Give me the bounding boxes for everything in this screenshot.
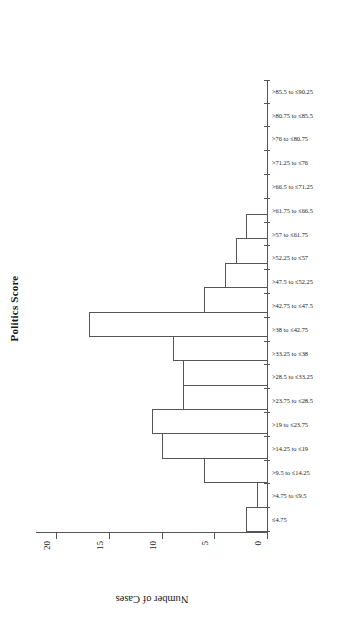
- y-axis-tick: [267, 533, 268, 539]
- x-axis-tick: [264, 341, 270, 342]
- y-axis-tick-label: 20: [42, 541, 52, 550]
- x-axis-tick: [264, 245, 270, 246]
- histogram-bar: [173, 336, 268, 361]
- x-axis-tick-label: >19 to ≤23.75: [270, 413, 356, 437]
- x-axis-tick-label-text: >14.25 to ≤19: [272, 445, 308, 452]
- histogram-figure: Politics Score Number of Cases 05101520 …: [0, 0, 363, 617]
- bars-container: [36, 81, 267, 532]
- y-axis-tick: [109, 533, 110, 539]
- x-axis-tick: [264, 436, 270, 437]
- x-axis-tick-label-text: >9.5 to ≤14.25: [272, 469, 310, 476]
- x-axis-tick: [264, 150, 270, 151]
- x-axis-tick-label: >14.25 to ≤19: [270, 437, 356, 461]
- histogram-bar: [225, 263, 267, 288]
- x-axis-tick: [264, 103, 270, 104]
- x-axis-tick: [264, 222, 270, 223]
- x-axis-tick-label-text: >76 to ≤80.75: [272, 136, 308, 143]
- x-axis-tick-label-text: ≤4.75: [272, 516, 287, 523]
- y-axis-tick: [56, 533, 57, 539]
- y-axis-tick: [214, 533, 215, 539]
- x-axis-tick-label-text: >47.5 to ≤52.25: [272, 278, 313, 285]
- x-axis-tick-label: >4.75 to ≤9.5: [270, 484, 356, 508]
- histogram-bar: [183, 360, 267, 385]
- x-axis-tick-labels: ≤4.75>4.75 to ≤9.5>9.5 to ≤14.25>14.25 t…: [270, 80, 356, 532]
- histogram-bar: [183, 385, 267, 410]
- x-axis-tick-label: >9.5 to ≤14.25: [270, 461, 356, 485]
- x-axis-tick: [264, 388, 270, 389]
- x-axis-tick-label-text: >52.25 to ≤57: [272, 255, 308, 262]
- y-axis-tick: [162, 533, 163, 539]
- x-axis-tick-label: >85.5 to ≤90.25: [270, 80, 356, 104]
- histogram-bar: [204, 458, 267, 483]
- histogram-bar: [257, 482, 268, 507]
- x-axis-tick-label: >80.75 to ≤85.5: [270, 104, 356, 128]
- x-axis-tick: [264, 507, 270, 508]
- x-axis-tick-label: >33.25 to ≤38: [270, 342, 356, 366]
- x-axis-tick: [264, 269, 270, 270]
- histogram-bar: [236, 239, 268, 264]
- x-axis-tick: [264, 174, 270, 175]
- x-axis-tick-label: ≤4.75: [270, 508, 356, 532]
- x-axis-tick-label: >42.75 to ≤47.5: [270, 294, 356, 318]
- x-axis-tick-label: >66.5 to ≤71.25: [270, 175, 356, 199]
- x-axis-tick-label-text: >42.75 to ≤47.5: [272, 302, 313, 309]
- x-axis-tick: [264, 364, 270, 365]
- x-axis-tick-label: >23.75 to ≤28.5: [270, 389, 356, 413]
- x-axis-tick-label: >61.75 to ≤66.5: [270, 199, 356, 223]
- x-axis-tick-label-text: >57 to ≤61.75: [272, 231, 308, 238]
- x-axis-tick-label-text: >80.75 to ≤85.5: [272, 112, 313, 119]
- y-axis-line: [36, 532, 268, 533]
- histogram-bar: [246, 214, 267, 239]
- x-axis-tick-label-text: >66.5 to ≤71.25: [272, 183, 313, 190]
- x-axis-tick-label: >38 to ≤42.75: [270, 318, 356, 342]
- y-axis-label: Number of Cases: [116, 594, 189, 605]
- x-axis-tick: [264, 293, 270, 294]
- x-axis-tick-label: >57 to ≤61.75: [270, 223, 356, 247]
- histogram-bar: [246, 507, 267, 532]
- x-axis-tick: [264, 198, 270, 199]
- histogram-bar: [162, 434, 267, 459]
- x-axis-tick-label: >76 to ≤80.75: [270, 127, 356, 151]
- y-axis-tick-label: 10: [148, 541, 158, 550]
- y-axis-tick-label: 5: [200, 541, 210, 546]
- x-axis-tick-label: >52.25 to ≤57: [270, 246, 356, 270]
- x-axis-tick: [264, 80, 270, 81]
- x-axis-tick-label: >71.25 to ≤76: [270, 151, 356, 175]
- x-axis-tick-label-text: >33.25 to ≤38: [272, 350, 308, 357]
- y-axis-tick-label: 0: [253, 541, 263, 546]
- histogram-bar: [89, 312, 268, 337]
- x-axis-tick-label-text: >85.5 to ≤90.25: [272, 88, 313, 95]
- x-axis-tick-label-text: >28.5 to ≤33.25: [272, 374, 313, 381]
- chart-title: Politics Score: [8, 0, 20, 617]
- plot-area: Number of Cases 05101520: [36, 81, 268, 533]
- x-axis-tick-label-text: >61.75 to ≤66.5: [272, 207, 313, 214]
- x-axis-tick: [264, 483, 270, 484]
- x-axis-tick-label: >28.5 to ≤33.25: [270, 365, 356, 389]
- x-axis-tick-label-text: >71.25 to ≤76: [272, 159, 308, 166]
- x-axis-tick: [264, 460, 270, 461]
- y-axis-tick-label: 15: [95, 541, 105, 550]
- histogram-bar: [152, 409, 268, 434]
- x-axis-tick: [264, 126, 270, 127]
- x-axis-tick-label-text: >23.75 to ≤28.5: [272, 397, 313, 404]
- x-axis-tick-label-text: >38 to ≤42.75: [272, 326, 308, 333]
- x-axis-tick: [264, 531, 270, 532]
- x-axis-tick-label-text: >4.75 to ≤9.5: [272, 493, 306, 500]
- x-axis-tick-label-text: >19 to ≤23.75: [272, 421, 308, 428]
- histogram-bar: [204, 287, 267, 312]
- x-axis-tick-label: >47.5 to ≤52.25: [270, 270, 356, 294]
- x-axis-tick: [264, 317, 270, 318]
- x-axis-tick: [264, 412, 270, 413]
- x-axis-line: [267, 81, 268, 533]
